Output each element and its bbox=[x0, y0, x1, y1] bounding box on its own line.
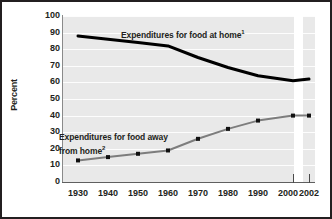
series-label-away-line1: Expenditures for food away bbox=[59, 132, 168, 142]
series-label-food-at-home-footnote: 1 bbox=[241, 29, 244, 35]
series-label-food-at-home: Expenditures for food at home1 bbox=[121, 27, 245, 41]
data-point-marker bbox=[226, 127, 230, 131]
series-label-food-at-home-text: Expenditures for food at home bbox=[121, 30, 241, 40]
series-label-food-away-from-home: Expenditures for food away from home2 bbox=[59, 132, 177, 157]
data-point-marker bbox=[291, 114, 295, 118]
series-label-away-line2: from home bbox=[59, 146, 102, 156]
data-point-marker bbox=[196, 137, 200, 141]
line-food-at-home bbox=[78, 36, 309, 81]
series-label-away-footnote: 2 bbox=[102, 145, 105, 151]
data-point-marker bbox=[307, 114, 311, 118]
chart-frame: 100 90 80 70 60 50 40 30 20 10 0 Percent… bbox=[0, 0, 332, 219]
data-point-marker bbox=[256, 119, 260, 123]
chart-canvas: 100 90 80 70 60 50 40 30 20 10 0 Percent… bbox=[2, 2, 330, 217]
data-point-marker bbox=[76, 158, 80, 162]
